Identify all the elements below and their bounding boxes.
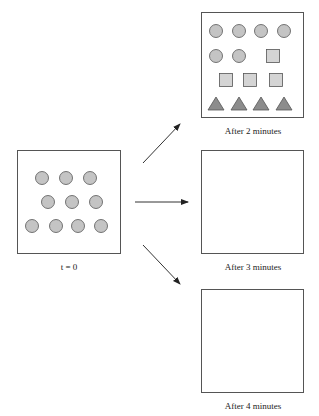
- circle-shape: [210, 25, 223, 38]
- square-shape: [270, 74, 283, 87]
- circle-shape: [233, 25, 246, 38]
- circle-shape: [255, 25, 268, 38]
- circle-shape: [84, 172, 97, 185]
- square-shape: [220, 74, 233, 87]
- arrow-to-2-minutes: [143, 124, 180, 163]
- circle-shape: [36, 172, 49, 185]
- shape-layer: [26, 25, 293, 233]
- arrow-to-4-minutes: [143, 245, 180, 284]
- circle-shape: [26, 220, 39, 233]
- triangle-shape: [253, 97, 269, 110]
- triangle-shape: [276, 97, 292, 110]
- circle-shape: [210, 50, 223, 63]
- square-shape: [267, 50, 280, 63]
- circle-shape: [233, 50, 246, 63]
- circle-shape: [90, 196, 103, 209]
- circle-shape: [95, 220, 108, 233]
- circle-shape: [60, 172, 73, 185]
- triangle-shape: [231, 97, 247, 110]
- circle-shape: [72, 220, 85, 233]
- square-shape: [244, 74, 257, 87]
- circle-shape: [42, 196, 55, 209]
- diagram-canvas: [0, 0, 319, 416]
- circle-shape: [66, 196, 79, 209]
- circle-shape: [278, 25, 291, 38]
- triangle-shape: [208, 97, 224, 110]
- circle-shape: [50, 220, 63, 233]
